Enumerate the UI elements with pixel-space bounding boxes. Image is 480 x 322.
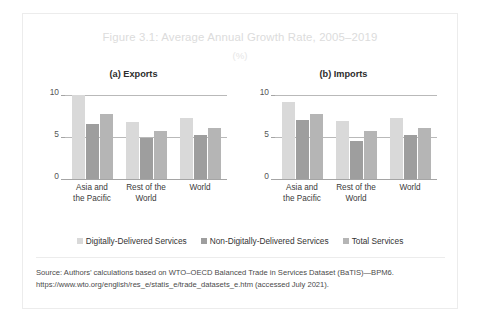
bar-group (333, 95, 379, 179)
bar-group (177, 95, 223, 179)
bar-group (69, 95, 115, 179)
figure-title: Figure 3.1: Average Annual Growth Rate, … (23, 31, 457, 43)
plot-area-exports: 0 5 10 (65, 96, 227, 180)
bar (126, 122, 139, 179)
ytick-label-10: 10 (50, 87, 59, 97)
source-note: Source: Authors’ calculations based on W… (36, 267, 445, 291)
bar-group (123, 95, 169, 179)
bar (310, 114, 323, 179)
xaxis-label: Asia andthe Pacific (276, 183, 328, 204)
bar (208, 128, 221, 179)
chart-panel-exports: (a) Exports 0 5 10 Asia andthe PacificRe… (31, 69, 236, 229)
bar (350, 141, 363, 179)
xaxis-label: Asia andthe Pacific (66, 183, 118, 204)
ytick-label-5: 5 (54, 129, 59, 139)
bar (194, 135, 207, 179)
bar (100, 114, 113, 179)
bar (296, 120, 309, 179)
figure-container: Figure 3.1: Average Annual Growth Rate, … (22, 13, 458, 309)
bar (390, 118, 403, 179)
chart-legend: Digitally-Delivered ServicesNon-Digitall… (23, 236, 457, 246)
source-divider (36, 257, 445, 258)
chart-panels: (a) Exports 0 5 10 Asia andthe PacificRe… (23, 69, 457, 229)
bar (140, 138, 153, 179)
bar-groups-imports (275, 95, 437, 179)
xaxis-label: World (174, 183, 226, 204)
bar (72, 95, 85, 179)
bar (364, 131, 377, 179)
ytick-mark-0 (271, 179, 275, 180)
bar (282, 102, 295, 179)
bar (418, 128, 431, 179)
figure-subtitle: (%) (23, 50, 457, 61)
axis-baseline (275, 179, 437, 180)
bar (180, 118, 193, 179)
bar (404, 135, 417, 179)
bar (336, 121, 349, 179)
bar (86, 124, 99, 179)
ytick-label-0: 0 (264, 171, 269, 181)
panel-title-imports: (b) Imports (241, 69, 446, 79)
legend-item: Total Services (343, 236, 404, 246)
legend-label: Non-Digitally-Delivered Services (210, 236, 329, 246)
legend-item: Non-Digitally-Delivered Services (201, 236, 329, 246)
legend-swatch-icon (201, 238, 207, 244)
axis-baseline (65, 179, 227, 180)
bar-group (387, 95, 433, 179)
plot-area-imports: 0 5 10 (275, 96, 437, 180)
xaxis-labels-imports: Asia andthe PacificRest of theWorldWorld (275, 183, 437, 204)
legend-swatch-icon (77, 238, 83, 244)
xaxis-label: Rest of theWorld (330, 183, 382, 204)
legend-label: Total Services (352, 236, 404, 246)
bar-group (279, 95, 325, 179)
ytick-label-5: 5 (264, 129, 269, 139)
xaxis-label: World (384, 183, 436, 204)
bar-groups-exports (65, 95, 227, 179)
legend-swatch-icon (343, 238, 349, 244)
legend-item: Digitally-Delivered Services (77, 236, 187, 246)
xaxis-labels-exports: Asia andthe PacificRest of theWorldWorld (65, 183, 227, 204)
ytick-label-0: 0 (54, 171, 59, 181)
ytick-mark-0 (61, 179, 65, 180)
legend-label: Digitally-Delivered Services (86, 236, 187, 246)
ytick-label-10: 10 (260, 87, 269, 97)
xaxis-label: Rest of theWorld (120, 183, 172, 204)
bar (154, 131, 167, 179)
chart-panel-imports: (b) Imports 0 5 10 Asia andthe PacificRe… (241, 69, 446, 229)
panel-title-exports: (a) Exports (31, 69, 236, 79)
